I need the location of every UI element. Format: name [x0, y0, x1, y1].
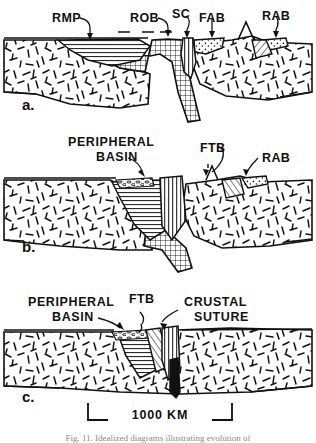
panel-c-flysch-lens — [112, 330, 150, 340]
label-rab: RAB — [262, 151, 290, 165]
label-ftb: FTB — [200, 141, 226, 155]
label-rob: ROB — [130, 11, 159, 25]
label-suture: SUTURE — [194, 310, 249, 324]
panel-b-fold-thrust-belt — [222, 178, 244, 198]
label-rab: RAB — [262, 9, 290, 23]
panel-letter-b: b. — [22, 238, 35, 255]
label-ftb: FTB — [129, 292, 155, 306]
label-peripheral: PERIPHERAL — [68, 135, 155, 149]
geologic-cross-section-figure: RMP ROB SC FAB RAB a. — [0, 0, 316, 443]
panel-c-suture-root — [170, 358, 180, 398]
label-rmp: RMP — [52, 11, 81, 25]
figure-caption: Fig. 11. Idealized diagrams illustrating… — [65, 433, 250, 443]
label-crustal: CRUSTAL — [184, 295, 247, 309]
panel-letter-c: c. — [22, 388, 35, 405]
panel-b-flysch-lens — [116, 178, 154, 188]
scale-bar: 1000 KM — [88, 403, 232, 422]
label-basin: BASIN — [52, 310, 94, 324]
panel-letter-a: a. — [22, 96, 35, 113]
label-peripheral: PERIPHERAL — [28, 295, 115, 309]
label-sc: SC — [172, 7, 190, 21]
label-fab: FAB — [199, 11, 225, 25]
label-basin: BASIN — [96, 150, 138, 164]
figure-root: RMP ROB SC FAB RAB a. — [0, 0, 316, 443]
scale-bar-label: 1000 KM — [132, 408, 188, 422]
